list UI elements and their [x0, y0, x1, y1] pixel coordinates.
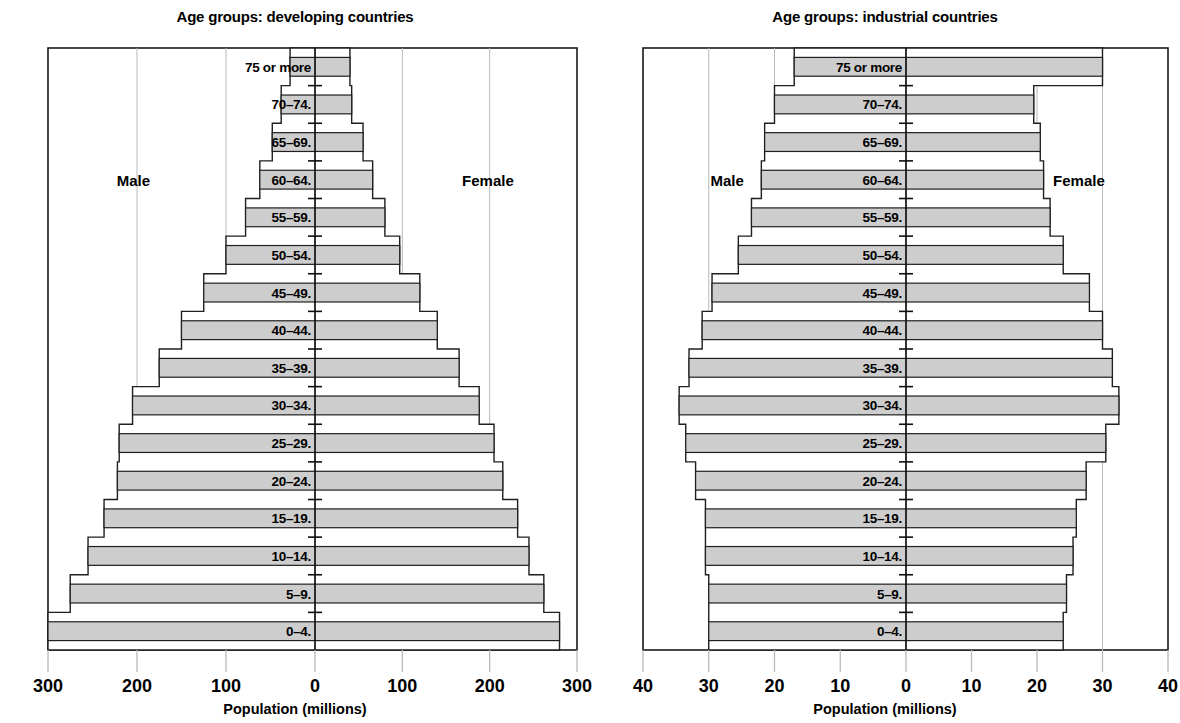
x-tick-label: 0: [901, 676, 911, 697]
age-group-label: 70–74.: [272, 97, 313, 112]
x-axis-label-developing: Population (millions): [0, 701, 590, 717]
age-group-label: 15–19.: [272, 511, 313, 526]
population-pyramid-figure: Age groups: developing countries Populat…: [0, 0, 1180, 723]
age-group-label: 40–44.: [272, 323, 313, 338]
x-tick-label: 40: [1158, 676, 1178, 697]
age-group-label: 75 or more: [836, 59, 903, 74]
age-group-label: 45–49.: [863, 285, 904, 300]
age-group-label: 35–39.: [863, 360, 904, 375]
age-group-label: 70–74.: [863, 97, 904, 112]
age-group-label: 25–29.: [863, 436, 904, 451]
age-group-label: 10–14.: [272, 548, 313, 563]
age-group-label: 45–49.: [272, 285, 313, 300]
x-tick-label: 10: [961, 676, 981, 697]
x-tick-label: 20: [764, 676, 784, 697]
age-group-label: 15–19.: [863, 511, 904, 526]
panel-industrial: Age groups: industrial countries Populat…: [590, 0, 1180, 723]
age-group-label: 60–64.: [272, 172, 313, 187]
age-group-label: 20–24.: [272, 473, 313, 488]
x-tick-label: 20: [1027, 676, 1047, 697]
male-label: Male: [710, 172, 743, 189]
age-group-label: 20–24.: [863, 473, 904, 488]
x-tick-label: 30: [1092, 676, 1112, 697]
x-tick-label: 100: [211, 676, 241, 697]
age-group-label: 30–34.: [863, 398, 904, 413]
age-group-label: 60–64.: [863, 172, 904, 187]
age-group-label: 40–44.: [863, 323, 904, 338]
age-group-label: 65–69.: [272, 135, 313, 150]
female-label: Female: [462, 172, 514, 189]
x-tick-label: 300: [33, 676, 63, 697]
age-group-label: 55–59.: [863, 210, 904, 225]
age-group-label: 65–69.: [863, 135, 904, 150]
age-group-label: 50–54.: [272, 247, 313, 262]
female-label: Female: [1053, 172, 1105, 189]
age-group-label: 5–9.: [286, 586, 312, 601]
age-group-label: 5–9.: [877, 586, 903, 601]
x-tick-label: 40: [633, 676, 653, 697]
x-tick-label: 100: [387, 676, 417, 697]
age-band: [775, 95, 1034, 114]
x-tick-label: 10: [830, 676, 850, 697]
x-tick-label: 200: [475, 676, 505, 697]
x-tick-label: 200: [122, 676, 152, 697]
age-group-label: 75 or more: [245, 59, 312, 74]
age-group-label: 10–14.: [863, 548, 904, 563]
x-tick-label: 0: [310, 676, 320, 697]
x-tick-label: 30: [699, 676, 719, 697]
x-axis-label-industrial: Population (millions): [590, 701, 1180, 717]
male-label: Male: [117, 172, 150, 189]
age-group-label: 35–39.: [272, 360, 313, 375]
x-tick-label: 300: [562, 676, 592, 697]
panel-developing: Age groups: developing countries Populat…: [0, 0, 590, 723]
age-group-label: 0–4.: [286, 624, 312, 639]
age-group-label: 25–29.: [272, 436, 313, 451]
age-band: [226, 246, 400, 265]
age-group-label: 55–59.: [272, 210, 313, 225]
age-group-label: 30–34.: [272, 398, 313, 413]
age-group-label: 0–4.: [877, 624, 903, 639]
age-group-label: 50–54.: [863, 247, 904, 262]
